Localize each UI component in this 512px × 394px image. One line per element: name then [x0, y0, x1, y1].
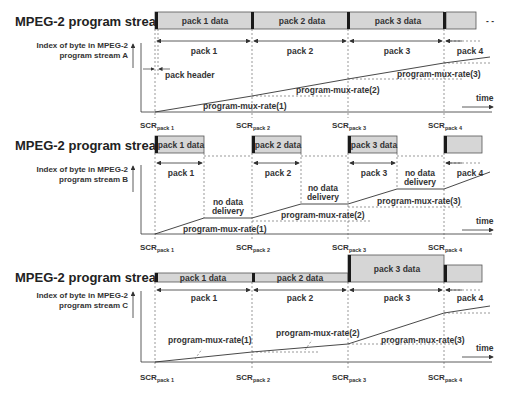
data-label: pack 1 data: [180, 273, 227, 283]
scr-label: SCRpack 3: [332, 121, 366, 131]
stream-c: MPEG-2 program stream C pack 1 data pack…: [15, 255, 494, 383]
svg-text:- -: - -: [486, 16, 494, 26]
pack-label: pack 3: [384, 293, 411, 303]
time-label: time: [476, 343, 494, 353]
scr-label: SCRpack 3: [332, 373, 366, 383]
scr-label: SCRpack 1: [140, 243, 174, 253]
y-axis-label: Index of byte in MPEG-2: [36, 165, 128, 174]
pack-label: pack 1: [191, 46, 218, 56]
stream-a: MPEG-2 program stream A pack 1 data pack…: [15, 12, 494, 131]
pack-header-3: [347, 12, 350, 29]
pack-header-1: [155, 12, 158, 29]
scr-label: SCRpack 1: [140, 121, 174, 131]
pack-label: pack 4: [457, 168, 484, 178]
rate-label: program-mux-rate(2): [296, 85, 380, 95]
data-label: pack 3 data: [375, 16, 422, 26]
y-axis-label: program stream A: [59, 51, 128, 60]
data-label: pack 2 data: [255, 140, 302, 150]
scr-label: SCRpack 1: [140, 373, 174, 383]
scr-label: SCRpack 2: [236, 243, 270, 253]
y-axis-label: program stream B: [59, 175, 128, 184]
scr-label: SCRpack 4: [428, 373, 463, 383]
data-label: pack 2 data: [279, 16, 326, 26]
data-label: pack 2 data: [277, 273, 324, 283]
scr-label: SCRpack 4: [428, 121, 463, 131]
y-axis-label: Index of byte in MPEG-2: [36, 41, 128, 50]
scr-label: SCRpack 2: [236, 121, 270, 131]
data-label: pack 3 data: [374, 264, 421, 274]
stream-b: MPEG-2 program stream B pack 1 data pack…: [15, 136, 494, 253]
pack-header-2: [251, 12, 254, 29]
pack-header-label: pack header: [165, 70, 215, 80]
pack-label: pack 4: [457, 293, 484, 303]
pack-label: pack 4: [457, 46, 484, 56]
stream-a-pack4-bar: [446, 12, 476, 29]
rate-label: program-mux-rate(3): [381, 335, 465, 345]
rate-label: program-mux-rate(2): [281, 210, 365, 220]
rate-label: program-mux-rate(3): [397, 69, 481, 79]
pack-label: pack 3: [361, 168, 388, 178]
mpeg2-stream-diagram: MPEG-2 program stream A pack 1 data pack…: [0, 0, 512, 394]
pack-label: pack 1: [168, 168, 195, 178]
scr-label: SCRpack 2: [236, 373, 270, 383]
rate-label: program-mux-rate(1): [183, 224, 267, 234]
no-data-label: delivery: [307, 192, 339, 202]
data-label: pack 1 data: [182, 16, 229, 26]
rate-label: program-mux-rate(2): [276, 328, 360, 338]
rate-label: program-mux-rate(3): [377, 196, 461, 206]
scr-label: SCRpack 4: [428, 243, 463, 253]
pack-label: pack 2: [265, 168, 292, 178]
no-data-label: delivery: [212, 206, 244, 216]
time-label: time: [476, 93, 494, 103]
rate-label: program-mux-rate(1): [203, 101, 287, 111]
pack-label: pack 2: [287, 293, 314, 303]
pack-label: pack 2: [287, 46, 314, 56]
pack-label: pack 1: [191, 293, 218, 303]
rate-label: program-mux-rate(1): [168, 335, 252, 345]
scr-label: SCRpack 3: [332, 243, 366, 253]
pack-label: pack 3: [384, 46, 411, 56]
data-label: pack 1 data: [158, 140, 205, 150]
y-axis-label: Index of byte in MPEG-2: [36, 291, 128, 300]
no-data-label: delivery: [404, 177, 436, 187]
data-label: pack 3 data: [351, 140, 398, 150]
y-axis-label: program stream C: [59, 301, 128, 310]
pack-header-4: [443, 12, 446, 29]
time-label: time: [476, 216, 494, 226]
